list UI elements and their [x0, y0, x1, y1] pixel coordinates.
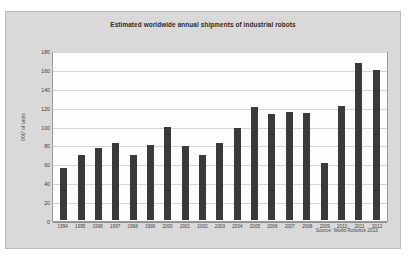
- bar: [303, 113, 310, 220]
- bar: [216, 143, 223, 220]
- bar: [95, 148, 102, 220]
- x-tick-label: 2002: [194, 224, 210, 229]
- bar: [182, 146, 189, 220]
- y-axis-ticks: 020406080100120140160180: [26, 52, 50, 222]
- x-tick-label: 1995: [72, 224, 88, 229]
- x-tick-label: 2000: [160, 224, 176, 229]
- y-tick-label: 140: [26, 87, 50, 93]
- x-tick-label: 1996: [90, 224, 106, 229]
- x-tick-label: 2007: [282, 224, 298, 229]
- y-tick-label: 80: [26, 143, 50, 149]
- x-tick-label: 2008: [299, 224, 315, 229]
- bar: [268, 114, 275, 220]
- bar: [251, 107, 258, 220]
- x-tick-label: 2006: [264, 224, 280, 229]
- y-tick-label: 100: [26, 125, 50, 131]
- bar: [112, 143, 119, 220]
- x-tick-label: 2001: [177, 224, 193, 229]
- x-tick-label: 1998: [125, 224, 141, 229]
- bar: [373, 70, 380, 220]
- bar: [147, 145, 154, 220]
- chart-screenshot: Estimated worldwide annual shipments of …: [0, 0, 408, 258]
- x-tick-label: 1997: [107, 224, 123, 229]
- x-tick-label: 1999: [142, 224, 158, 229]
- bar: [164, 127, 171, 221]
- source-note: Source: World Robotics 2013: [316, 228, 378, 233]
- y-tick-label: 0: [26, 219, 50, 225]
- bar: [78, 155, 85, 220]
- bar: [338, 106, 345, 220]
- bar: [234, 128, 241, 220]
- bar: [60, 168, 67, 220]
- x-tick-label: 2003: [212, 224, 228, 229]
- plot-area: [52, 52, 388, 222]
- y-tick-label: 40: [26, 181, 50, 187]
- bar: [355, 63, 362, 220]
- bar: [199, 155, 206, 220]
- y-tick-label: 20: [26, 200, 50, 206]
- bar: [130, 155, 137, 220]
- y-tick-label: 160: [26, 68, 50, 74]
- y-tick-label: 120: [26, 106, 50, 112]
- x-tick-label: 1994: [55, 224, 71, 229]
- chart-panel: Estimated worldwide annual shipments of …: [5, 11, 401, 249]
- y-tick-label: 60: [26, 162, 50, 168]
- bar-series: [53, 53, 387, 220]
- y-tick-label: 180: [26, 49, 50, 55]
- bar: [286, 112, 293, 220]
- bar: [321, 163, 328, 220]
- chart-title: Estimated worldwide annual shipments of …: [6, 21, 400, 28]
- x-tick-label: 2004: [229, 224, 245, 229]
- gridline: [53, 222, 387, 223]
- x-tick-label: 2005: [247, 224, 263, 229]
